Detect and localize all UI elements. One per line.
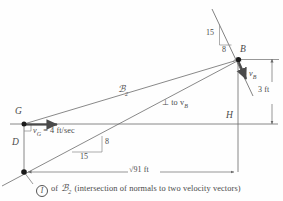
point-dot-instant-center (21, 169, 27, 175)
velocity-g-value: = 4 ft/sec (43, 126, 75, 135)
slope-top-run-label: 8 (222, 46, 226, 54)
caption-k2-subscript: 2 (68, 189, 71, 195)
velocity-vector-b (238, 60, 247, 80)
slope-bottom-run-label: 15 (80, 153, 88, 161)
kinematics-figure: B G D H ℬ2 15 8 8 15 vG= 4 ft/sec vB ⊥ t… (0, 0, 283, 201)
point-label-g: G (15, 107, 22, 117)
point-label-h: H (226, 111, 233, 121)
velocity-b-annotation: vB (249, 70, 257, 80)
velocity-b-subscript: B (253, 74, 257, 80)
velocity-g-annotation: vG= 4 ft/sec (33, 127, 75, 137)
dimension-label-3ft: 3 ft (258, 86, 269, 94)
point-dot-g (22, 122, 27, 127)
slope-triangle-top (220, 24, 232, 45)
instant-center-marker: I (36, 185, 48, 197)
line-k2-normal-to-vg (24, 59, 241, 124)
slope-top-rise-label: 15 (206, 29, 214, 37)
point-label-b: B (240, 45, 246, 55)
slope-bottom-rise-label: 8 (105, 138, 109, 146)
perpendicular-subscript: B (184, 103, 188, 109)
point-dot-b (236, 57, 241, 62)
caption-text-after: (intersection of normals to two velocity… (74, 184, 240, 193)
perpendicular-annotation: ⊥ to vB (162, 99, 188, 109)
caption-text-before: of (51, 184, 58, 193)
velocity-g-subscript: G (37, 131, 41, 137)
figure-caption: Iofℬ2(intersection of normals to two vel… (36, 184, 241, 197)
point-label-d: D (12, 138, 19, 148)
dimension-label-sqrt91: √91 ft (129, 166, 149, 174)
line-label-k2: ℬ2 (118, 79, 128, 97)
perpendicular-text: ⊥ to v (162, 98, 184, 107)
slope-triangle-bottom (72, 136, 102, 152)
k2-subscript: 2 (125, 91, 128, 97)
point-dots (21, 57, 241, 175)
incline-line-through-b (212, 9, 253, 96)
